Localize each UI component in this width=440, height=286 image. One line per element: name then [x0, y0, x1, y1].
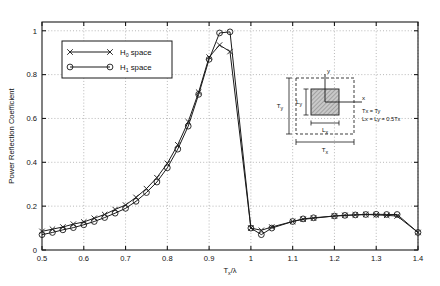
x-tick-label: 0.8 — [162, 254, 173, 263]
x-axis-label-tail: /λ — [231, 266, 237, 275]
inset-note-line2: Lx = Ly = 0.5Tx — [362, 116, 401, 122]
legend-label-h1: H1 space — [120, 63, 152, 73]
y-axis-label-text: Power Reflection Coefficient — [7, 87, 16, 183]
y-tick-label: 0.8 — [26, 70, 37, 79]
svg-text:Tx/λ: Tx/λ — [223, 266, 236, 276]
chart-figure: 0.50.60.70.80.911.11.21.31.4 00.20.40.60… — [0, 0, 440, 286]
x-axis-label: Tx/λ — [223, 266, 236, 276]
x-tick-label: 0.9 — [204, 254, 215, 263]
x-tick-label: 1 — [249, 254, 253, 263]
y-tick-label: 0.2 — [26, 202, 37, 211]
y-tick-label: 0 — [33, 246, 37, 255]
x-tick-label: 1.1 — [287, 254, 298, 263]
y-tick-label: 1 — [33, 27, 37, 36]
legend-box — [62, 41, 172, 78]
x-tick-label: 1.4 — [413, 254, 424, 263]
x-tick-label: 1.2 — [329, 254, 340, 263]
inset-note-line1: Tx = Ty — [362, 108, 381, 114]
legend[interactable]: H0 space H1 space — [62, 41, 172, 78]
x-tick-label: 0.7 — [120, 254, 131, 263]
x-tick-label: 1.3 — [371, 254, 382, 263]
y-axis-label: Power Reflection Coefficient — [7, 87, 16, 183]
legend-label-h0: H0 space — [120, 48, 152, 58]
x-tick-label: 0.6 — [78, 254, 89, 263]
x-tick-label: 0.5 — [37, 254, 48, 263]
chart-svg: 0.50.60.70.80.911.11.21.31.4 00.20.40.60… — [0, 0, 440, 286]
y-tick-label: 0.6 — [26, 114, 37, 123]
y-tick-label: 0.4 — [26, 158, 37, 167]
